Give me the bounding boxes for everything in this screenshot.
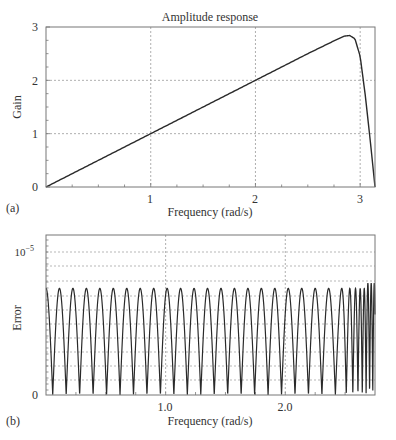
- figure: Amplitude response 3 2 1 0 1 2 3 Frequen…: [0, 0, 396, 440]
- xtick-2.0: 2.0: [278, 400, 293, 414]
- ytick-1: 1: [32, 127, 38, 141]
- panel-a: Amplitude response 3 2 1 0 1 2 3 Frequen…: [6, 10, 375, 219]
- panel-a-ylabel: Gain: [10, 95, 24, 118]
- panel-b: 10−5 0 1.0 2.0 Frequency (rad/s) Error (…: [6, 235, 375, 428]
- panel-b-ylabel: Error: [10, 305, 24, 330]
- panel-a-xlabel: Frequency (rad/s): [168, 205, 253, 219]
- ytick-1e-5: 10−5: [14, 244, 34, 258]
- panel-b-label: (b): [6, 414, 20, 428]
- xtick-1.0: 1.0: [158, 400, 173, 414]
- panel-a-label: (a): [6, 201, 19, 215]
- xtick-1: 1: [147, 192, 153, 206]
- panel-a-grid: [46, 27, 375, 187]
- panel-b-ticks: [46, 240, 345, 395]
- panel-b-xlabel: Frequency (rad/s): [168, 414, 253, 428]
- xtick-2: 2: [252, 192, 258, 206]
- ytick-2: 2: [32, 74, 38, 88]
- xtick-3: 3: [357, 192, 363, 206]
- ytick-0: 0: [32, 388, 38, 402]
- panel-a-title: Amplitude response: [162, 10, 258, 24]
- panel-a-frame: [46, 27, 375, 187]
- ytick-0: 0: [32, 180, 38, 194]
- gain-curve: [46, 36, 375, 187]
- error-curve: [46, 283, 375, 395]
- ytick-3: 3: [32, 20, 38, 34]
